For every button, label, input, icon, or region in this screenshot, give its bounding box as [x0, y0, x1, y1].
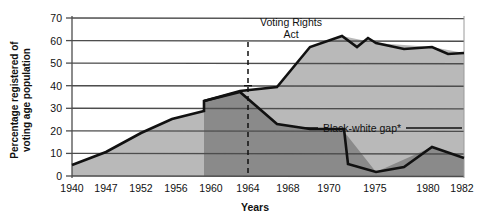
y-tick-label-30: 30: [50, 102, 62, 114]
voting-rights-act-label-line2: Act: [283, 28, 298, 40]
x-axis-title: Years: [241, 201, 269, 213]
x-tick-label-1952: 1952: [129, 182, 153, 194]
x-tick-label-1975: 1975: [363, 182, 387, 194]
x-tick-label-1956: 1956: [164, 182, 188, 194]
y-tick-label-40: 40: [50, 80, 62, 92]
x-tick-label-1968: 1968: [276, 182, 300, 194]
x-tick-label-1960: 1960: [199, 182, 223, 194]
voter-registration-area-chart: 70 60 50 40 30 20 10 0 Voting Rights Act…: [0, 0, 481, 221]
y-tick-label-0: 0: [56, 170, 62, 182]
y-axis-title-line1: Percentage registered of: [9, 41, 20, 159]
x-tick-label-1970: 1970: [317, 182, 341, 194]
x-tick-label-1980: 1980: [416, 182, 440, 194]
voting-rights-act-label-line1: Voting Rights: [260, 16, 322, 28]
y-tick-label-10: 10: [50, 147, 62, 159]
y-tick-label-20: 20: [50, 125, 62, 137]
x-tick-label-1940: 1940: [60, 182, 84, 194]
y-tick-label-60: 60: [50, 35, 62, 47]
black-white-gap-label: Black-white gap*: [323, 122, 401, 134]
y-tick-label-70: 70: [50, 12, 62, 24]
x-tick-label-1947: 1947: [94, 182, 118, 194]
y-axis-title-line2: voting age population: [21, 48, 32, 152]
x-tick-label-1982: 1982: [450, 182, 474, 194]
chart-container: 70 60 50 40 30 20 10 0 Voting Rights Act…: [0, 0, 481, 221]
y-tick-label-50: 50: [50, 57, 62, 69]
x-tick-label-1964: 1964: [236, 182, 260, 194]
